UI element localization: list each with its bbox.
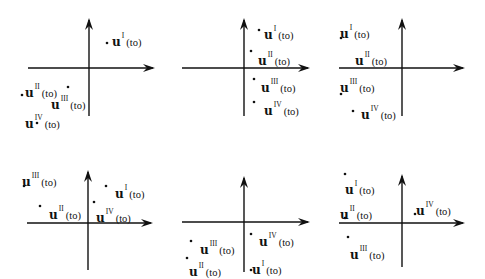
point-dot-iv xyxy=(253,101,256,104)
vector-argument: (to) xyxy=(369,250,384,261)
vector-argument: (to) xyxy=(45,119,60,130)
vector-symbol: u xyxy=(189,265,198,279)
vector-symbol: u xyxy=(259,235,268,249)
vector-index: IV xyxy=(426,200,434,209)
point-dot-ii xyxy=(21,94,24,97)
vector-symbol: u xyxy=(49,208,58,222)
vector-index: II xyxy=(199,261,204,270)
vector-symbol: u xyxy=(115,187,124,201)
point-label-iv: uIV(to) xyxy=(264,105,299,118)
vector-argument: (to) xyxy=(284,106,299,117)
vector-index: I xyxy=(274,24,277,33)
vector-index: IV xyxy=(35,113,43,122)
vector-symbol: u xyxy=(25,117,34,131)
point-dot-iii xyxy=(347,236,350,239)
point-label-iv: uIV(to) xyxy=(361,109,396,122)
vector-index: III xyxy=(360,244,368,253)
point-label-ii: uII(to) xyxy=(189,266,221,279)
vector-symbol: u xyxy=(25,86,34,100)
vector-argument: (to) xyxy=(126,37,141,48)
vector-symbol: u xyxy=(416,204,425,218)
vector-index: III xyxy=(210,239,218,248)
vector-index: III xyxy=(271,77,279,86)
vector-symbol: u xyxy=(361,108,370,122)
point-label-i: uI(to) xyxy=(340,28,369,41)
vector-symbol: u xyxy=(355,54,364,68)
point-dot-iii xyxy=(67,86,70,89)
point-label-ii: uII(to) xyxy=(258,55,290,68)
point-label-i: uI(to) xyxy=(252,264,281,277)
vector-symbol: u xyxy=(258,54,267,68)
vector-argument: (to) xyxy=(278,30,293,41)
vector-symbol: u xyxy=(340,81,349,95)
vector-argument: (to) xyxy=(219,245,234,256)
point-dot-i xyxy=(258,29,261,32)
point-label-iii: uIII(to) xyxy=(340,82,374,95)
vector-index: I xyxy=(125,183,128,192)
vector-argument: (to) xyxy=(206,267,221,278)
point-label-iii: uIII(to) xyxy=(200,244,234,257)
point-label-iv: uIV(to) xyxy=(25,118,60,131)
vector-index: II xyxy=(59,204,64,213)
vector-symbol: u xyxy=(261,81,270,95)
vector-symbol: u xyxy=(22,175,31,189)
vector-symbol: u xyxy=(345,183,354,197)
point-label-ii: uII(to) xyxy=(49,209,81,222)
vector-argument: (to) xyxy=(359,83,374,94)
vector-argument: (to) xyxy=(372,56,387,67)
vector-index: III xyxy=(61,94,69,103)
vector-argument: (to) xyxy=(279,237,294,248)
point-label-iii: uIII(to) xyxy=(350,249,384,262)
vector-index: I xyxy=(262,259,265,268)
point-dot-i xyxy=(106,42,109,45)
point-dot-iv xyxy=(352,110,355,113)
vector-argument: (to) xyxy=(266,265,281,276)
vector-argument: (to) xyxy=(357,210,372,221)
point-label-iii: uIII(to) xyxy=(261,82,295,95)
vector-argument: (to) xyxy=(66,210,81,221)
vector-index: I xyxy=(122,31,125,40)
point-dot-ii xyxy=(39,205,42,208)
vector-symbol: u xyxy=(112,35,121,49)
vector-index: II xyxy=(350,204,355,213)
vector-symbol: u xyxy=(264,28,273,42)
point-label-ii: uII(to) xyxy=(355,55,387,68)
vector-argument: (to) xyxy=(359,185,374,196)
vector-symbol: u xyxy=(350,248,359,262)
vector-index: II xyxy=(35,82,40,91)
vector-argument: (to) xyxy=(70,100,85,111)
vector-index: I xyxy=(350,23,353,32)
point-dot-ii xyxy=(186,257,189,260)
point-dot-iii xyxy=(190,240,193,243)
point-label-iii: uIII(to) xyxy=(51,99,85,112)
point-label-ii: uII(to) xyxy=(340,209,372,222)
point-label-iv: uIV(to) xyxy=(416,205,451,218)
point-dot-i xyxy=(105,185,108,188)
vector-index: IV xyxy=(274,100,282,109)
vector-symbol: u xyxy=(96,211,105,225)
point-dot-ii xyxy=(250,50,253,53)
vector-argument: (to) xyxy=(116,213,131,224)
vector-argument: (to) xyxy=(354,29,369,40)
panel-1 xyxy=(21,18,155,124)
point-dot-i xyxy=(344,173,347,176)
panel-5 xyxy=(182,176,310,272)
vector-argument: (to) xyxy=(275,56,290,67)
vector-symbol: u xyxy=(252,263,261,277)
vector-symbol: u xyxy=(51,98,60,112)
vector-index: IV xyxy=(269,231,277,240)
vector-index: III xyxy=(350,77,358,86)
vector-index: IV xyxy=(371,104,379,113)
vector-argument: (to) xyxy=(436,206,451,217)
vector-argument: (to) xyxy=(381,110,396,121)
vector-argument: (to) xyxy=(129,189,144,200)
point-label-i: uI(to) xyxy=(264,29,293,42)
vector-index: I xyxy=(355,179,358,188)
point-label-i: uI(to) xyxy=(345,184,374,197)
point-label-i: uI(to) xyxy=(112,36,141,49)
point-dot-iv xyxy=(93,201,96,204)
point-label-i: uI(to) xyxy=(115,188,144,201)
point-dot-iv xyxy=(250,233,253,236)
vector-index: II xyxy=(365,50,370,59)
